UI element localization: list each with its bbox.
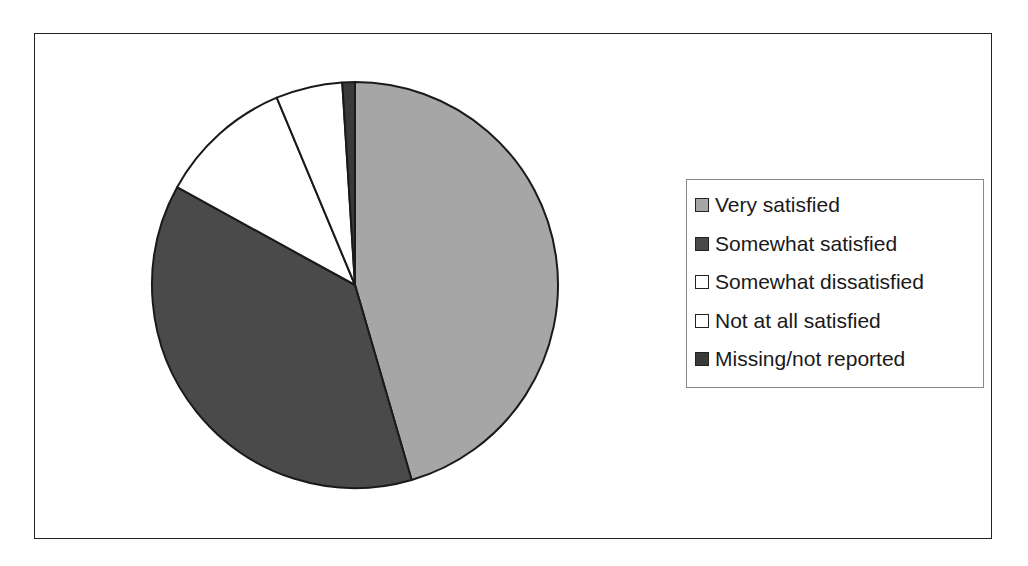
legend-item-somewhat-satisfied: Somewhat satisfied (695, 225, 983, 264)
legend-item-very-satisfied: Very satisfied (695, 186, 983, 225)
legend-label: Missing/not reported (715, 347, 905, 371)
legend-label: Not at all satisfied (715, 309, 881, 333)
legend-swatch-icon (695, 314, 709, 328)
legend-swatch-icon (695, 198, 709, 212)
legend-label: Somewhat dissatisfied (715, 270, 924, 294)
legend-label: Very satisfied (715, 193, 840, 217)
legend-label: Somewhat satisfied (715, 232, 897, 256)
legend-swatch-icon (695, 352, 709, 366)
chart-legend: Very satisfied Somewhat satisfied Somewh… (686, 179, 984, 388)
legend-item-somewhat-dissatisfied: Somewhat dissatisfied (695, 263, 983, 302)
legend-item-missing-not-reported: Missing/not reported (695, 340, 983, 379)
legend-swatch-icon (695, 275, 709, 289)
legend-swatch-icon (695, 237, 709, 251)
legend-item-not-at-all-satisfied: Not at all satisfied (695, 302, 983, 341)
